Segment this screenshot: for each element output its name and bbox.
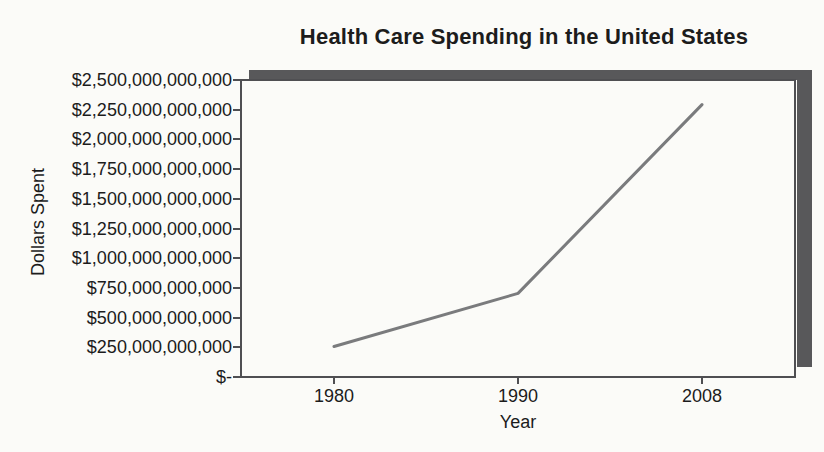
y-tick-mark — [233, 198, 241, 200]
x-axis-title: Year — [418, 412, 618, 433]
y-axis-title: Dollars Spent — [28, 168, 49, 276]
x-tick-label: 1980 — [289, 386, 379, 406]
y-tick-mark — [233, 79, 241, 81]
y-tick-mark — [233, 346, 241, 348]
x-tick-mark — [333, 378, 335, 384]
y-tick-mark — [233, 228, 241, 230]
y-tick-label: $2,500,000,000,000 — [0, 70, 232, 90]
x-tick-mark — [517, 378, 519, 384]
y-tick-label: $- — [0, 367, 232, 387]
y-tick-label: $750,000,000,000 — [0, 278, 232, 298]
data-line — [242, 81, 794, 376]
y-tick-label: $250,000,000,000 — [0, 337, 232, 357]
chart-figure: Health Care Spending in the United State… — [0, 0, 824, 452]
chart-title: Health Care Spending in the United State… — [224, 24, 824, 50]
y-tick-mark — [233, 287, 241, 289]
y-tick-mark — [233, 317, 241, 319]
y-tick-mark — [233, 138, 241, 140]
x-tick-mark — [701, 378, 703, 384]
y-tick-label: $500,000,000,000 — [0, 308, 232, 328]
y-tick-mark — [233, 376, 241, 378]
plot-frame-shadow-right — [797, 70, 812, 367]
y-tick-label: $2,250,000,000,000 — [0, 100, 232, 120]
y-tick-mark — [233, 257, 241, 259]
x-tick-label: 1990 — [473, 386, 563, 406]
y-tick-mark — [233, 109, 241, 111]
x-tick-label: 2008 — [657, 386, 747, 406]
y-tick-label: $2,000,000,000,000 — [0, 129, 232, 149]
y-tick-mark — [233, 168, 241, 170]
